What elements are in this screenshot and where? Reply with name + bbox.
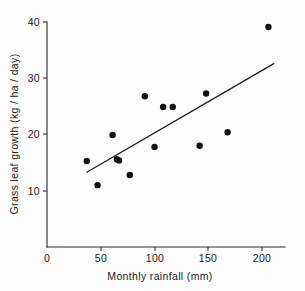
data-point [116,157,122,163]
y-tick-label-30: 30 [28,72,40,84]
trend-line [87,64,274,173]
data-point [170,104,176,110]
scatter-plot-svg: 40 30 20 10 0 50 100 150 200 Monthly rai… [0,0,305,291]
data-point [127,172,133,178]
x-tick-label-0: 0 [44,252,50,264]
data-point [196,143,202,149]
x-tick-label-150: 150 [199,252,217,264]
chart-figure: 40 30 20 10 0 50 100 150 200 Monthly rai… [0,0,305,291]
x-tick-label-200: 200 [253,252,271,264]
data-point [203,90,209,96]
data-point [151,144,157,150]
y-tick-label-40: 40 [28,16,40,28]
y-tick-label-10: 10 [28,185,40,197]
data-point [84,158,90,164]
y-tick-label-20: 20 [28,128,40,140]
data-point [160,104,166,110]
x-axis-ticks [101,247,262,251]
data-point [224,129,230,135]
x-axis-title: Monthly rainfall (mm) [107,270,212,282]
x-tick-label-100: 100 [146,252,164,264]
data-point [142,93,148,99]
y-axis-ticks [43,22,47,191]
y-axis-title: Grass leaf growth (kg / ha / day) [8,54,20,215]
data-point [94,182,100,188]
data-points-group [84,24,272,188]
x-tick-label-50: 50 [95,252,107,264]
data-point [109,132,115,138]
data-point [265,24,271,30]
